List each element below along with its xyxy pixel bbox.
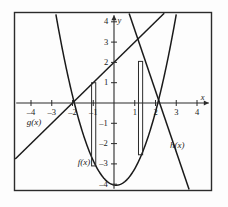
x-tick-label-1: 1 bbox=[133, 108, 137, 117]
x-axis-name: x bbox=[201, 92, 205, 102]
x-tick-label--3: –3 bbox=[48, 108, 57, 117]
curve-label-hx: h(x) bbox=[170, 141, 185, 150]
y-tick-label-3: 3 bbox=[104, 38, 108, 47]
x-tick-label--1: –1 bbox=[89, 108, 98, 117]
graph-figure: –4–3–2–11234–4–3–2–11234yxf(x)g(x)h(x) bbox=[0, 0, 228, 207]
curve-label-fx: f(x) bbox=[78, 158, 91, 167]
x-tick-label-2: 2 bbox=[153, 108, 157, 117]
x-tick-label-3: 3 bbox=[174, 108, 178, 117]
y-axis-name: y bbox=[118, 15, 122, 25]
y-tick-label--3: –3 bbox=[99, 159, 108, 168]
x-tick-label-4: 4 bbox=[195, 108, 199, 117]
coordinate-plot bbox=[0, 0, 228, 207]
y-tick-label-4: 4 bbox=[104, 17, 108, 26]
y-tick-label--4: –4 bbox=[99, 180, 108, 189]
curve-label-gx: g(x) bbox=[27, 118, 42, 127]
x-tick-label--4: –4 bbox=[27, 108, 36, 117]
y-tick-label-2: 2 bbox=[104, 58, 108, 67]
y-tick-label--1: –1 bbox=[99, 119, 108, 128]
y-tick-label--2: –2 bbox=[99, 139, 108, 148]
y-tick-label-1: 1 bbox=[104, 78, 108, 87]
x-tick-label--2: –2 bbox=[68, 108, 77, 117]
